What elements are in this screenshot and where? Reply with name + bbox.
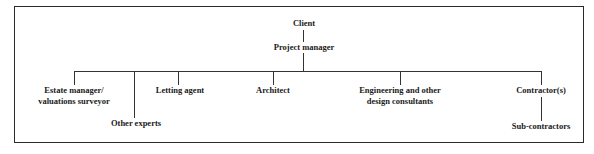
node-subcontractors: Sub-contractors bbox=[512, 121, 571, 132]
node-client: Client bbox=[293, 18, 315, 29]
connector-letting bbox=[178, 71, 179, 85]
connector-architect bbox=[273, 71, 274, 85]
connector-estate bbox=[74, 71, 75, 85]
node-other-experts: Other experts bbox=[111, 118, 161, 129]
connector-pm-bus bbox=[303, 53, 304, 71]
connector-contractors bbox=[541, 71, 542, 85]
node-project-manager: Project manager bbox=[274, 42, 335, 53]
node-contractors: Contractor(s) bbox=[516, 85, 566, 96]
connector-bus bbox=[74, 71, 541, 72]
node-engineering-line2: design consultants bbox=[359, 96, 441, 107]
node-engineering: Engineering and other design consultants bbox=[359, 85, 441, 107]
node-estate-manager-line2: valuations surveyor bbox=[38, 96, 110, 107]
connector-engineering bbox=[400, 71, 401, 85]
connector-other-experts bbox=[134, 71, 135, 118]
node-architect: Architect bbox=[256, 85, 290, 96]
node-letting-agent: Letting agent bbox=[156, 85, 204, 96]
connector-subcontractors bbox=[541, 97, 542, 121]
node-engineering-line1: Engineering and other bbox=[359, 85, 441, 96]
node-estate-manager-line1: Estate manager/ bbox=[38, 85, 110, 96]
node-estate-manager: Estate manager/ valuations surveyor bbox=[38, 85, 110, 107]
connector-client-pm bbox=[303, 30, 304, 42]
